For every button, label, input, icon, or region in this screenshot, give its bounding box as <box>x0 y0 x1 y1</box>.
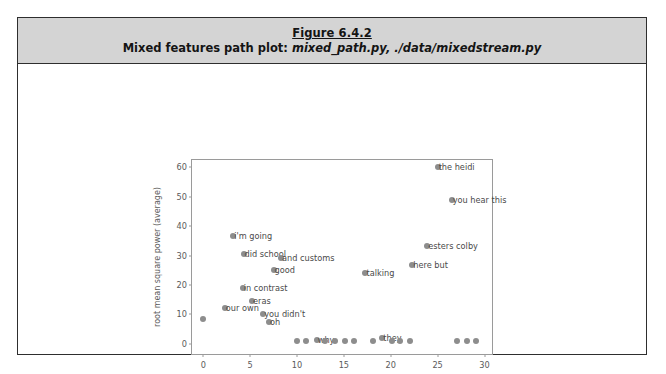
x-tick-label: 30 <box>479 354 489 370</box>
scatter-point-label: in contrast <box>244 283 288 293</box>
figure-subtitle-prefix: Mixed features path plot: <box>123 41 288 55</box>
figure-subtitle: Mixed features path plot: mixed_path.py,… <box>123 41 542 56</box>
scatter-point <box>370 338 376 344</box>
x-tick-label: 5 <box>248 354 253 370</box>
scatter-point <box>464 338 470 344</box>
scatter-point <box>322 338 328 344</box>
figure-header: Figure 6.4.2 Mixed features path plot: m… <box>18 18 646 64</box>
y-tick-label: 60 <box>177 162 192 172</box>
x-tick-label: 25 <box>432 354 442 370</box>
x-tick-label: 0 <box>201 354 206 370</box>
scatter-plot-axes: 0102030405060051015202530our owni'm goin… <box>191 159 493 355</box>
x-tick-label: 10 <box>292 354 302 370</box>
figure-title: Figure 6.4.2 <box>292 26 372 40</box>
scatter-point <box>294 338 300 344</box>
scatter-point-label: talking <box>366 268 394 278</box>
scatter-point <box>473 338 479 344</box>
scatter-point <box>389 338 395 344</box>
x-tick-label: 20 <box>386 354 396 370</box>
scatter-point-label: the heidi <box>439 162 475 172</box>
y-axis-label: root mean square power (average) <box>153 187 162 327</box>
scatter-point-label: oh <box>270 317 280 327</box>
scatter-point <box>342 338 348 344</box>
y-tick-label: 0 <box>182 339 192 349</box>
scatter-point-label: here but <box>413 260 448 270</box>
y-tick-label: 20 <box>177 280 192 290</box>
scatter-point-label: eras <box>253 296 271 306</box>
scatter-point-label: good <box>275 265 295 275</box>
scatter-point-label: esters colby <box>428 241 478 251</box>
scatter-point-label: i'm going <box>234 231 272 241</box>
scatter-point-label: you hear this <box>453 195 507 205</box>
y-tick-label: 40 <box>177 221 192 231</box>
y-tick-label: 30 <box>177 251 192 261</box>
x-tick-label: 15 <box>339 354 349 370</box>
scatter-point <box>407 338 413 344</box>
scatter-point <box>332 338 338 344</box>
scatter-point <box>351 338 357 344</box>
scatter-point <box>454 338 460 344</box>
figure-subtitle-files: mixed_path.py, ./data/mixedstream.py <box>292 41 541 55</box>
plot-area: root mean square power (average) time (s… <box>18 64 646 355</box>
y-tick-label: 50 <box>177 192 192 202</box>
scatter-point <box>200 316 206 322</box>
figure-card: Figure 6.4.2 Mixed features path plot: m… <box>17 17 647 355</box>
scatter-point-label: and customs <box>282 253 334 263</box>
y-tick-label: 10 <box>177 309 192 319</box>
scatter-point <box>397 338 403 344</box>
scatter-point <box>303 338 309 344</box>
